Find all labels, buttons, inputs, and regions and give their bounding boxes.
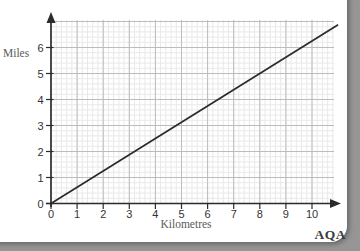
x-tick-label: 1 (74, 208, 80, 220)
y-tick-label: 3 (37, 120, 43, 132)
x-tick-label: 0 (48, 208, 54, 220)
x-tick-label: 3 (126, 208, 132, 220)
x-tick-label: 9 (283, 208, 289, 220)
y-tick-label: 6 (37, 42, 43, 54)
y-axis-title: Miles (3, 47, 30, 59)
x-axis-arrowhead (330, 199, 341, 208)
y-tick-label: 1 (37, 172, 43, 184)
y-tick-label: 5 (37, 68, 43, 80)
kilometres-to-miles-conversion-line (51, 25, 338, 204)
y-tick-label: 0 (37, 198, 43, 210)
y-axis-arrowhead (47, 12, 56, 23)
exam-board-logo: AQA (315, 227, 347, 242)
x-tick-label: 4 (152, 208, 158, 220)
y-tick-label: 2 (37, 146, 43, 158)
x-tick-label: 8 (257, 208, 263, 220)
x-axis-title: Kilometres (160, 218, 212, 230)
conversion-line-chart: 0123456012345678910 Miles Kilometres AQA (0, 0, 360, 251)
x-tick-label: 10 (306, 208, 318, 220)
screen: 0123456012345678910 Miles Kilometres AQA (0, 0, 360, 251)
series-line (51, 25, 338, 204)
x-tick-label: 2 (100, 208, 106, 220)
axis-ticks (46, 48, 312, 210)
x-tick-label: 7 (231, 208, 237, 220)
y-tick-label: 4 (37, 94, 43, 106)
